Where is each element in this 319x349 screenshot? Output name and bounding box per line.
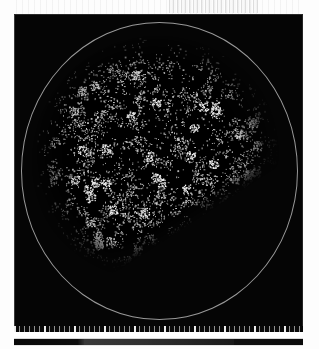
scatter-point-field xyxy=(32,36,284,288)
grayscale-colorbar xyxy=(14,338,303,346)
scan-noise-band-secondary xyxy=(168,0,258,13)
caption-spacer xyxy=(14,332,303,336)
plot-panel xyxy=(14,14,303,326)
scan-noise-band xyxy=(14,0,303,14)
structure-clip-region xyxy=(14,14,303,326)
large-scale-structure-points xyxy=(32,36,284,288)
figure-page xyxy=(0,0,319,349)
colorbar-highlight-segment xyxy=(84,339,234,345)
bottom-tick-axis xyxy=(14,326,303,332)
major-ticks xyxy=(14,326,303,332)
